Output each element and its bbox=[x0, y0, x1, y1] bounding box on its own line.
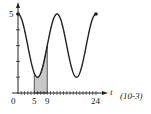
x-axis-label: t bbox=[110, 87, 113, 97]
cosine-curve bbox=[18, 14, 96, 77]
figure-label: (10-3) bbox=[120, 91, 143, 101]
x-tick-label-9: 9 bbox=[45, 96, 50, 106]
x-tick-label-24: 24 bbox=[91, 96, 101, 106]
x-axis-arrow-icon bbox=[102, 91, 108, 95]
function-graph: 5 0 5 9 24 t (10-3) bbox=[0, 0, 151, 114]
x-tick-label-0: 0 bbox=[11, 96, 16, 106]
start-point bbox=[16, 12, 20, 16]
x-tick-label-5: 5 bbox=[32, 96, 37, 106]
y-axis-arrow-icon bbox=[16, 2, 20, 8]
y-tick-label-5: 5 bbox=[9, 9, 14, 19]
end-point bbox=[94, 12, 98, 16]
